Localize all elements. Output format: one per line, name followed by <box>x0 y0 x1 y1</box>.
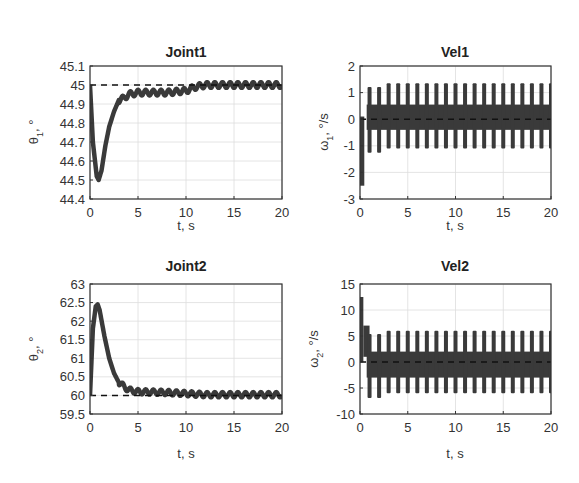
subplot-vel1: Vel1 t, s ω1, °/s 05101520-3-2-1012 <box>316 44 558 233</box>
y-tick-label: 61 <box>71 351 85 366</box>
y-tick-label: 60.5 <box>60 369 85 384</box>
plot-area: 0510152059.56060.56161.56262.563 <box>60 277 290 436</box>
figure: Joint1 t, s θ1, ° 0510152044.444.544.644… <box>0 0 579 483</box>
x-tick-label: 0 <box>86 205 93 220</box>
chart-title: Vel2 <box>441 258 469 274</box>
y-tick-label: -1 <box>343 138 355 153</box>
y-tick-label: 5 <box>348 329 355 344</box>
x-tick-label: 10 <box>448 420 462 435</box>
y-tick-label: 0 <box>348 112 355 127</box>
y-tick-label: -10 <box>336 407 355 422</box>
plot-area: 05101520-3-2-1012 <box>343 59 558 221</box>
y-tick-label: 44.9 <box>60 97 85 112</box>
x-tick-label: 0 <box>356 205 363 220</box>
x-tick-label: 15 <box>496 420 510 435</box>
x-tick-label: 10 <box>179 205 193 220</box>
chart-title: Vel1 <box>441 44 469 60</box>
y-axis-label: ω2, °/s <box>306 330 325 368</box>
y-tick-label: 10 <box>341 303 355 318</box>
y-tick-label: 15 <box>341 277 355 292</box>
x-axis-label: t, s <box>177 218 195 233</box>
x-tick-label: 0 <box>356 420 363 435</box>
y-tick-label: 44.4 <box>60 192 85 207</box>
plot-area: 05101520-10-5051015 <box>336 277 558 436</box>
chart-title: Joint2 <box>165 258 206 274</box>
y-tick-label: -2 <box>343 165 355 180</box>
x-axis-label: t, s <box>177 446 195 461</box>
subplot-joint1: Joint1 t, s θ1, ° 0510152044.444.544.644… <box>26 44 289 233</box>
data-series <box>360 297 553 398</box>
subplot-vel2: Vel2 t, s ω2, °/s 05101520-10-5051015 <box>306 258 558 461</box>
y-axis-ticks: 44.444.544.644.744.844.94545.1 <box>60 59 93 207</box>
chart-title: Joint1 <box>165 44 206 60</box>
y-tick-label: 45 <box>71 78 85 93</box>
x-axis-label: t, s <box>446 446 464 461</box>
y-tick-label: 44.8 <box>60 116 85 131</box>
x-tick-label: 5 <box>134 420 141 435</box>
x-axis-ticks: 05101520 <box>356 196 558 220</box>
x-tick-label: 10 <box>448 205 462 220</box>
x-tick-label: 20 <box>275 205 289 220</box>
data-series <box>360 83 553 185</box>
y-axis-label: ω1, °/s <box>316 113 335 151</box>
x-axis-ticks: 05101520 <box>86 196 289 220</box>
y-tick-label: -5 <box>343 381 355 396</box>
y-tick-label: 44.5 <box>60 173 85 188</box>
y-tick-label: -3 <box>343 192 355 207</box>
y-axis-ticks: 59.56060.56161.56262.563 <box>60 277 93 422</box>
x-tick-label: 5 <box>404 205 411 220</box>
x-axis-label: t, s <box>446 218 464 233</box>
plot-area: 0510152044.444.544.644.744.844.94545.1 <box>60 59 290 221</box>
y-axis-ticks: -10-5051015 <box>336 277 363 422</box>
y-tick-label: 60 <box>71 388 85 403</box>
y-tick-label: 1 <box>348 85 355 100</box>
x-tick-label: 15 <box>227 205 241 220</box>
x-tick-label: 15 <box>227 420 241 435</box>
x-axis-ticks: 05101520 <box>86 411 289 435</box>
x-tick-label: 20 <box>544 420 558 435</box>
y-axis-label: θ2, ° <box>26 337 45 362</box>
y-tick-label: 44.6 <box>60 154 85 169</box>
y-tick-label: 44.7 <box>60 135 85 150</box>
x-tick-label: 5 <box>404 420 411 435</box>
subplot-joint2: Joint2 t, s θ2, ° 0510152059.56060.56161… <box>26 258 289 461</box>
y-tick-label: 0 <box>348 355 355 370</box>
y-tick-label: 63 <box>71 277 85 292</box>
x-tick-label: 5 <box>134 205 141 220</box>
x-tick-label: 20 <box>275 420 289 435</box>
x-tick-label: 15 <box>496 205 510 220</box>
x-tick-label: 20 <box>544 205 558 220</box>
x-axis-ticks: 05101520 <box>356 411 558 435</box>
y-tick-label: 45.1 <box>60 59 85 74</box>
x-tick-label: 10 <box>179 420 193 435</box>
y-axis-label: θ1, ° <box>26 120 45 145</box>
y-tick-label: 59.5 <box>60 407 85 422</box>
y-tick-label: 62 <box>71 314 85 329</box>
y-tick-label: 61.5 <box>60 332 85 347</box>
y-tick-label: 62.5 <box>60 295 85 310</box>
x-tick-label: 0 <box>86 420 93 435</box>
y-tick-label: 2 <box>348 59 355 74</box>
